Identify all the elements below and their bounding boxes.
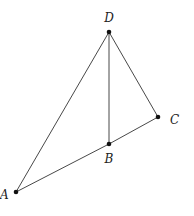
label-C: C (170, 113, 179, 127)
label-D: D (103, 11, 114, 25)
label-B: B (104, 152, 114, 166)
segment-BC (109, 117, 158, 144)
point-C (156, 115, 161, 120)
point-D (107, 30, 112, 35)
segment-DC (109, 32, 158, 117)
point-B (107, 142, 112, 147)
point-A (14, 190, 19, 195)
label-A: A (0, 188, 9, 202)
geometry-diagram: D B C A (0, 0, 194, 216)
